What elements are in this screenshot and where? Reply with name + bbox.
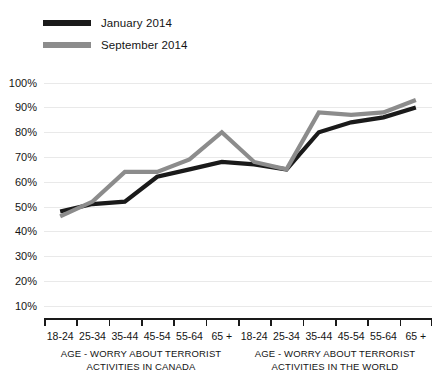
y-axis-tick-label: 70% <box>15 151 37 163</box>
plot-area: 10%20%30%40%50%60%70%80%90%100% <box>44 76 432 318</box>
x-axis-label: 25-34 <box>79 330 106 342</box>
group-caption: AGE - WORRY ABOUT TERRORISTACTIVITIES IN… <box>255 348 416 373</box>
x-axis-label: 35-44 <box>305 330 332 342</box>
x-axis-label: 55-64 <box>176 330 203 342</box>
legend-label-january-2014: January 2014 <box>101 17 172 29</box>
line-chart: January 2014 September 2014 10%20%30%40%… <box>0 0 443 386</box>
series-line-september-2014 <box>60 100 416 216</box>
x-axis-tick <box>367 318 369 326</box>
legend-swatch-january-2014 <box>43 20 91 26</box>
x-axis-label: 65 + <box>405 330 426 342</box>
y-axis-tick-label: 10% <box>15 300 37 312</box>
y-axis-tick-label: 100% <box>9 77 37 89</box>
legend-swatch-september-2014 <box>43 42 91 48</box>
x-axis-tick <box>44 318 46 326</box>
y-axis-tick-label: 60% <box>15 176 37 188</box>
x-axis-tick <box>173 318 175 326</box>
y-axis-tick-label: 90% <box>15 101 37 113</box>
x-axis-label: 18-24 <box>241 330 268 342</box>
x-axis-tick <box>335 318 337 326</box>
y-axis-tick-label: 20% <box>15 275 37 287</box>
x-axis <box>44 318 432 326</box>
x-axis-label: 25-34 <box>273 330 300 342</box>
y-axis-tick-label: 40% <box>15 225 37 237</box>
series-line-january-2014 <box>60 107 416 211</box>
x-axis-tick <box>400 318 402 326</box>
y-axis-tick-label: 50% <box>15 201 37 213</box>
x-axis-label: 65 + <box>211 330 232 342</box>
x-axis-tick <box>109 318 111 326</box>
x-axis-tick <box>141 318 143 326</box>
chart-legend: January 2014 September 2014 <box>43 12 343 56</box>
x-axis-tick <box>270 318 272 326</box>
y-axis-tick-label: 80% <box>15 126 37 138</box>
x-axis-label: 45-54 <box>144 330 171 342</box>
x-axis-label: 18-24 <box>47 330 74 342</box>
x-axis-tick <box>206 318 208 326</box>
x-axis-tick <box>76 318 78 326</box>
legend-label-september-2014: September 2014 <box>101 39 187 51</box>
x-axis-label: 55-64 <box>370 330 397 342</box>
group-caption-line: AGE - WORRY ABOUT TERRORIST <box>61 348 222 361</box>
legend-item-january-2014: January 2014 <box>43 12 343 34</box>
x-axis-label: 45-54 <box>338 330 365 342</box>
group-caption-line: ACTIVITIES IN THE WORLD <box>255 361 416 374</box>
group-caption-line: ACTIVITIES IN CANADA <box>61 361 222 374</box>
x-axis-tick <box>238 318 240 326</box>
legend-item-september-2014: September 2014 <box>43 34 343 56</box>
y-axis-tick-label: 30% <box>15 250 37 262</box>
x-axis-label: 35-44 <box>111 330 138 342</box>
group-caption: AGE - WORRY ABOUT TERRORISTACTIVITIES IN… <box>61 348 222 373</box>
x-axis-labels: 18-2425-3435-4445-5455-6465 +18-2425-343… <box>44 330 432 346</box>
series-lines <box>44 76 432 318</box>
group-caption-line: AGE - WORRY ABOUT TERRORIST <box>255 348 416 361</box>
x-axis-tick <box>431 318 433 326</box>
x-axis-tick <box>303 318 305 326</box>
